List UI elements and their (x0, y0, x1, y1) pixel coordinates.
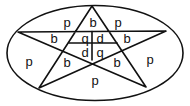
pentagram-ellipse-diagram: pbpbqdbdqpbbpp (0, 0, 190, 106)
region-label-p-top-right: p (114, 15, 121, 30)
region-label-d-upper: d (96, 31, 103, 46)
region-label-b-lower-right: b (113, 55, 120, 70)
region-label-b-right: b (123, 31, 130, 46)
region-label-b-left: b (50, 31, 57, 46)
region-label-p-top-left: p (63, 15, 70, 30)
region-label-q-lower: q (96, 45, 103, 60)
region-label-q-upper: q (81, 31, 88, 46)
region-labels: pbpbqdbdqpbbpp (25, 15, 153, 88)
region-label-p-bottom: p (91, 73, 98, 88)
region-label-b-top: b (89, 15, 96, 30)
region-label-d-lower: d (81, 45, 88, 60)
region-label-b-lower-left: b (63, 55, 70, 70)
region-label-p-left: p (25, 54, 32, 69)
region-label-p-right: p (146, 52, 153, 67)
